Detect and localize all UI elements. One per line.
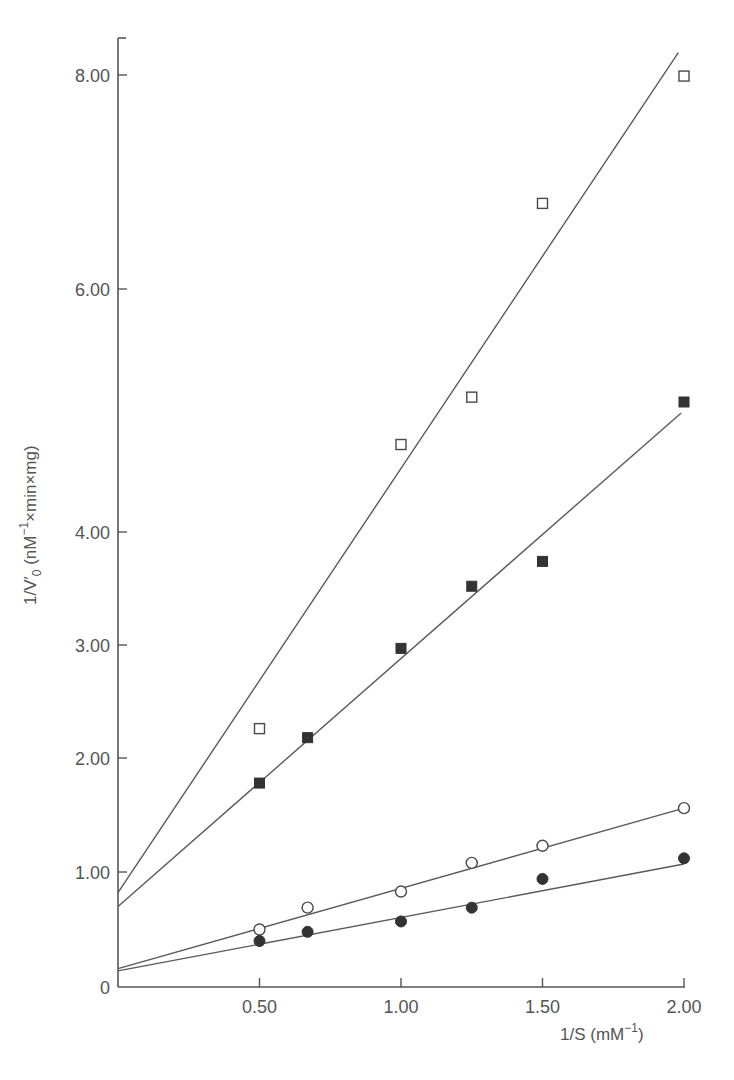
y-axis-title: 1/V′0 (nM−1×min×mg) (17, 445, 44, 605)
x-axis-title: 1/S (mM−1) (560, 1021, 644, 1044)
x-ticks: 0.501.001.502.00 (242, 978, 702, 1017)
y-tick-label: 2.00 (75, 749, 110, 769)
marker-circle-filled (396, 916, 407, 927)
marker-square-filled (396, 643, 406, 653)
marker-square-open (538, 198, 548, 208)
x-tick-label: 1.50 (525, 997, 560, 1017)
data-markers (254, 71, 690, 946)
lineweaver-burk-chart: 01.002.003.004.006.008.00 0.501.001.502.… (0, 0, 734, 1080)
x-tick-label: 0.50 (242, 997, 277, 1017)
marker-square-open (679, 71, 689, 81)
y-tick-label: 8.00 (75, 66, 110, 86)
marker-square-filled (679, 397, 689, 407)
marker-circle-open (396, 886, 407, 897)
fit-line-square-open (118, 53, 678, 893)
marker-square-filled (538, 556, 548, 566)
marker-circle-open (537, 840, 548, 851)
y-ticks: 01.002.003.004.006.008.00 (75, 66, 127, 998)
marker-circle-filled (537, 873, 548, 884)
y-tick-label: 1.00 (75, 863, 110, 883)
axes (118, 38, 685, 987)
x-tick-label: 1.00 (383, 997, 418, 1017)
marker-square-open (467, 392, 477, 402)
y-tick-label: 4.00 (75, 523, 110, 543)
marker-circle-open (679, 803, 690, 814)
marker-square-filled (467, 581, 477, 591)
marker-square-filled (303, 733, 313, 743)
marker-square-open (255, 724, 265, 734)
marker-circle-open (254, 924, 265, 935)
marker-circle-filled (302, 926, 313, 937)
marker-circle-filled (466, 902, 477, 913)
fit-lines (118, 53, 684, 971)
y-tick-label: 0 (100, 978, 110, 998)
marker-circle-filled (679, 853, 690, 864)
marker-square-filled (255, 778, 265, 788)
marker-circle-open (466, 857, 477, 868)
x-tick-label: 2.00 (666, 997, 701, 1017)
marker-circle-filled (254, 936, 265, 947)
y-tick-label: 3.00 (75, 636, 110, 656)
marker-square-open (396, 440, 406, 450)
y-tick-label: 6.00 (75, 280, 110, 300)
marker-circle-open (302, 902, 313, 913)
